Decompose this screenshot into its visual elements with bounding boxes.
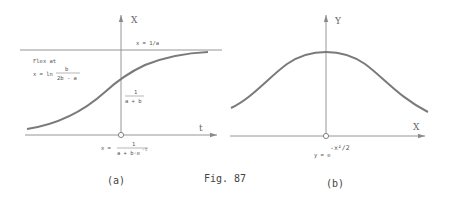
panel-b-label: (b) bbox=[326, 178, 344, 189]
asymptote-label: x = 1/a bbox=[136, 40, 159, 46]
origin-marker bbox=[118, 132, 123, 137]
figure-87: X x = 1/a Flex at x = ln b 2b - a 1 a + … bbox=[0, 0, 452, 205]
t-axis-label: t bbox=[199, 123, 203, 133]
flex-label-line2: x = ln bbox=[33, 71, 53, 77]
formula-num: 1 bbox=[132, 141, 135, 147]
flex-label-line1: Flex at bbox=[33, 58, 56, 64]
panel-a-label: (a) bbox=[107, 175, 125, 186]
x-axis-label: X bbox=[413, 122, 420, 132]
intercept-fraction-num: 1 bbox=[134, 89, 137, 95]
formula-exp: -x²/2 bbox=[330, 144, 350, 152]
formula-prefix: y = e bbox=[314, 152, 331, 159]
y-axis-label: X bbox=[131, 15, 138, 25]
panel-b: Y X y = e -x²/2 (b) bbox=[230, 15, 428, 189]
flex-fraction-num: b bbox=[65, 66, 68, 72]
panel-a: X x = 1/a Flex at x = ln b 2b - a 1 a + … bbox=[20, 15, 222, 186]
gaussian-curve bbox=[231, 52, 428, 112]
figure-caption: Fig. 87 bbox=[204, 173, 246, 184]
flex-fraction-den: 2b - a bbox=[57, 75, 77, 81]
intercept-fraction-den: a + b bbox=[125, 98, 142, 104]
y-axis-label: Y bbox=[334, 16, 342, 26]
formula-den: a + b·e bbox=[117, 150, 140, 156]
origin-marker bbox=[323, 133, 328, 138]
formula-prefix: x = bbox=[101, 145, 112, 151]
formula-den-exp: -t bbox=[142, 147, 148, 152]
